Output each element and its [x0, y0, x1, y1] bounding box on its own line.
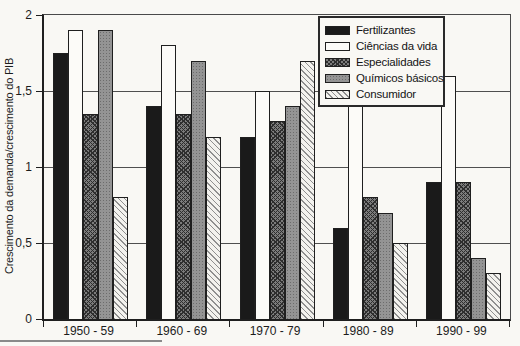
bar: [456, 182, 471, 319]
legend-item: Consumidor: [325, 86, 438, 102]
bar: [53, 53, 68, 319]
legend-item: Fertilizantes: [325, 22, 438, 38]
bar: [161, 45, 176, 319]
y-tick-label: 2: [2, 8, 32, 22]
x-category-label: 1990 - 99: [415, 324, 508, 338]
legend: FertilizantesCiências da vidaEspecialida…: [318, 16, 445, 107]
legend-label: Especialidades: [356, 56, 431, 68]
legend-item: Ciências da vida: [325, 38, 438, 54]
bar-group: [44, 15, 137, 319]
bar: [300, 61, 315, 319]
x-category-label: 1970 - 79: [228, 324, 321, 338]
bar: [206, 137, 221, 319]
bar: [255, 91, 270, 319]
bar: [146, 106, 161, 319]
page-rule-line: [0, 340, 162, 342]
bar: [270, 121, 285, 319]
bar: [83, 114, 98, 319]
y-tick-mark: [36, 319, 42, 320]
legend-label: Consumidor: [356, 88, 416, 100]
bar: [191, 61, 206, 319]
y-tick-mark: [36, 15, 42, 16]
legend-label: Fertilizantes: [356, 24, 415, 36]
x-tick-mark: [509, 321, 510, 327]
chart-figure: Crescimento da demanda/crescimento do PI…: [0, 0, 520, 346]
legend-swatch-solid-black: [325, 26, 350, 35]
legend-swatch-light-diagonal-hatch: [325, 90, 350, 99]
bar-group: [137, 15, 230, 319]
bar: [393, 243, 408, 319]
bar: [176, 114, 191, 319]
bar: [486, 273, 501, 319]
bar: [285, 106, 300, 319]
bar: [471, 258, 486, 319]
legend-swatch-gray-dotted: [325, 74, 350, 83]
bar-group: [230, 15, 323, 319]
legend-swatch-dark-crosshatch: [325, 58, 350, 67]
legend-swatch-white: [325, 42, 350, 51]
legend-label: Ciências da vida: [356, 40, 437, 52]
bar: [363, 197, 378, 319]
y-tick-label: 0,5: [2, 236, 32, 250]
bar: [378, 213, 393, 319]
x-axis-labels: 1950 - 591960 - 691970 - 791980 - 891990…: [42, 324, 508, 338]
y-tick-mark: [36, 91, 42, 92]
x-category-label: 1960 - 69: [135, 324, 228, 338]
x-category-label: 1980 - 89: [322, 324, 415, 338]
bar: [240, 137, 255, 319]
bar: [113, 197, 128, 319]
legend-item: Especialidades: [325, 54, 438, 70]
x-category-label: 1950 - 59: [42, 324, 135, 338]
legend-item: Químicos básicos: [325, 70, 438, 86]
y-tick-mark: [36, 243, 42, 244]
bar: [441, 76, 456, 319]
bar: [98, 30, 113, 319]
bar: [68, 30, 83, 319]
y-tick-label: 1: [2, 160, 32, 174]
bar: [333, 228, 348, 319]
bar: [426, 182, 441, 319]
legend-label: Químicos básicos: [356, 72, 444, 84]
y-tick-label: 0: [2, 312, 32, 326]
bar: [348, 106, 363, 319]
y-tick-label: 1,5: [2, 84, 32, 98]
y-tick-mark: [36, 167, 42, 168]
